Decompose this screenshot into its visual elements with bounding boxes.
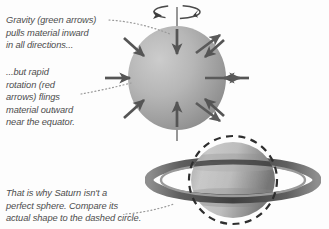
caption-shape: That is why Saturn isn't a perfect spher… [6,187,166,225]
caption-rotation: ...but rapid rotation (red arrows) fling… [6,66,92,129]
spin-arrowhead-left-icon [153,11,162,19]
saturn-oblateness-figure: Gravity (green arrows) pulls material in… [0,0,329,229]
caption-gravity: Gravity (green arrows) pulls material in… [6,14,118,52]
